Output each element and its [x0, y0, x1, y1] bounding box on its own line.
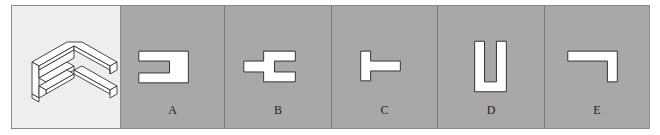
option-label: D: [438, 103, 544, 118]
option-label: B: [225, 103, 331, 118]
option-label: E: [545, 103, 649, 118]
option-d[interactable]: D: [438, 6, 545, 128]
option-c[interactable]: C: [332, 6, 438, 128]
option-e[interactable]: E: [545, 6, 649, 128]
option-label: C: [332, 103, 437, 118]
question-panel: [12, 6, 121, 128]
isometric-block-figure-icon: [12, 6, 120, 128]
puzzle-frame: A B C D E: [11, 5, 650, 129]
option-label: A: [121, 103, 224, 118]
option-a[interactable]: A: [121, 6, 225, 128]
option-b[interactable]: B: [225, 6, 332, 128]
